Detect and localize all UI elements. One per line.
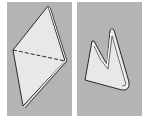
u-fold-shape-icon	[85, 29, 129, 90]
fold-diagram	[0, 0, 143, 118]
diamond-sheet-icon	[13, 6, 67, 108]
